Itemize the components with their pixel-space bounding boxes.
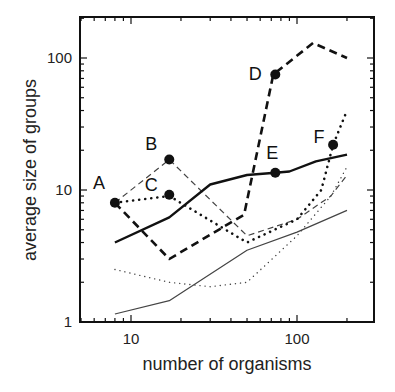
point-marker-c — [164, 190, 174, 200]
y-tick-label: 10 — [55, 181, 72, 198]
point-marker-a — [110, 198, 120, 208]
point-label-e: E — [266, 143, 278, 163]
point-marker-f — [328, 140, 338, 150]
series-line-thin-dashed — [115, 160, 347, 236]
point-marker-e — [270, 168, 280, 178]
x-axis-title: number of organisms — [142, 354, 311, 374]
point-marker-b — [164, 155, 174, 165]
point-label-d: D — [249, 64, 262, 84]
y-axis-title: average size of groups — [20, 79, 40, 261]
point-annotations: ABCDEF — [93, 64, 338, 207]
x-tick-label: 100 — [284, 330, 309, 347]
x-tick-label: 10 — [123, 330, 140, 347]
chart: ABCDEF 10100110100 number of organisms a… — [0, 0, 395, 392]
point-label-b: B — [145, 134, 157, 154]
point-label-c: C — [145, 175, 158, 195]
point-label-f: F — [314, 127, 325, 147]
point-label-a: A — [93, 173, 105, 193]
y-tick-label: 1 — [64, 313, 72, 330]
point-marker-d — [270, 69, 280, 79]
y-tick-label: 100 — [47, 49, 72, 66]
series-line-heavy-solid — [115, 155, 347, 243]
axis-ticks — [80, 17, 374, 322]
plot-frame — [80, 17, 374, 322]
